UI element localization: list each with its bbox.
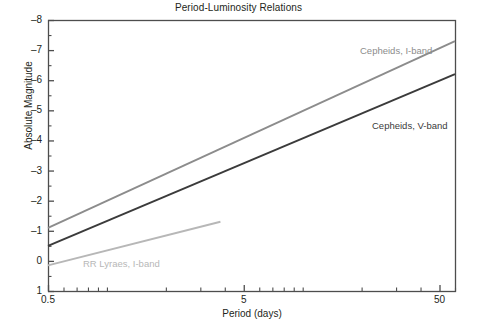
chart-figure: Period-Luminosity Relations Absolute Mag… [0,0,477,327]
series-line-1 [48,74,455,246]
series-line-2 [48,222,220,266]
series-line-0 [48,41,455,228]
plot-area [0,0,477,327]
